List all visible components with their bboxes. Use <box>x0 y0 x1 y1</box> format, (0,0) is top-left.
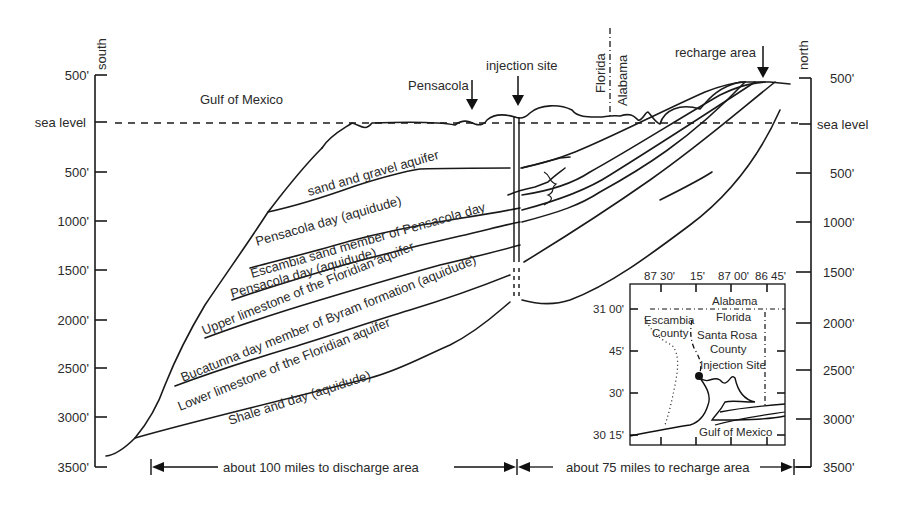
gulf-of-mexico-label: Gulf of Mexico <box>200 92 283 107</box>
left-depth-axis: south 500' sea level 500' 1000' 1500' 20… <box>35 38 109 475</box>
right-tick-label: 500' <box>830 166 854 181</box>
longitude-label: 87 30' <box>644 270 675 282</box>
layer-label: sand and gravel aquifer <box>306 147 441 199</box>
left-tick-label: 500' <box>65 68 89 83</box>
inset-gulf-label: Gulf of Mexico <box>699 426 773 438</box>
right-tick-label: 3500' <box>823 460 854 475</box>
inset-santa-rosa-label: Santa Rosa <box>697 329 758 341</box>
recharge-area-arrow-icon <box>757 46 769 78</box>
florida-label: Florida <box>593 52 608 93</box>
left-tick-label: 2000' <box>58 313 89 328</box>
right-depth-axis: north 500' sea level 500' 1000' 1500' 20… <box>796 40 868 475</box>
injection-site-label: injection site <box>486 58 558 73</box>
inset-alabama-label: Alabama <box>712 295 758 307</box>
left-tick-label: sea level <box>35 115 86 130</box>
left-tick-label: 3500' <box>58 460 89 475</box>
geologic-cross-section: south 500' sea level 500' 1000' 1500' 20… <box>0 0 902 505</box>
injection-site-marker <box>695 372 703 380</box>
discharge-distance-indicator: about 100 miles to discharge area <box>151 459 517 475</box>
right-tick-label: sea level <box>817 117 868 132</box>
inset-florida-label: Florida <box>716 311 752 323</box>
right-tick-label: 2500' <box>823 363 854 378</box>
inset-santa-rosa-county-label: County <box>710 343 747 355</box>
inset-escambia-label: Escambia <box>644 314 695 326</box>
pensacola-label: Pensacola <box>408 78 469 93</box>
left-tick-label: 1500' <box>58 263 89 278</box>
latitude-label: 31 00' <box>593 303 624 315</box>
right-tick-label: 2000' <box>823 316 854 331</box>
left-tick-label: 500' <box>65 165 89 180</box>
longitude-label: 15' <box>690 270 705 282</box>
recharge-area-label: recharge area <box>675 45 757 60</box>
longitude-label: 86 45' <box>755 270 786 282</box>
discharge-distance-label: about 100 miles to discharge area <box>223 460 420 475</box>
injection-site-arrow-icon <box>512 76 524 106</box>
latitude-label: 45' <box>609 345 624 357</box>
right-tick-label: 500' <box>830 71 854 86</box>
north-label: north <box>796 40 811 70</box>
latitude-label: 30' <box>609 387 624 399</box>
south-label: south <box>94 38 109 70</box>
longitude-label: 87 00' <box>718 270 749 282</box>
land-surface-profile <box>322 82 790 148</box>
latitude-label: 30 15' <box>593 429 624 441</box>
recharge-distance-label: about 75 miles to recharge area <box>566 460 750 475</box>
left-tick-label: 3000' <box>58 410 89 425</box>
left-tick-label: 1000' <box>58 214 89 229</box>
right-tick-label: 1500' <box>823 265 854 280</box>
left-tick-label: 2500' <box>58 361 89 376</box>
inset-location-map: 87 30' 15' 87 00' 86 45' 31 00' 45' 30' … <box>593 270 786 445</box>
alabama-label: Alabama <box>615 54 630 106</box>
recharge-distance-indicator: about 75 miles to recharge area <box>518 459 811 475</box>
inset-injection-site-label: Injection Site <box>700 359 766 371</box>
inset-escambia-county-label: County <box>652 327 689 339</box>
right-tick-label: 1000' <box>823 215 854 230</box>
right-tick-label: 3000' <box>823 412 854 427</box>
